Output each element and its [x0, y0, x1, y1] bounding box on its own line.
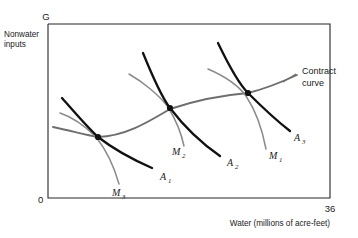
- x-axis-label: Water (millions of acre-feet): [230, 219, 331, 228]
- curve-label-a2-base: A: [226, 157, 234, 168]
- curve-label-m2-base: M: [171, 146, 181, 157]
- curve-label-a2: A 2: [226, 157, 239, 170]
- contract-curve-annotation-line1: Contract: [302, 66, 337, 76]
- curve-label-a1-base: A: [159, 171, 167, 182]
- isoquant-m1-path: [208, 69, 266, 149]
- curve-label-m2-sub: 2: [182, 152, 186, 159]
- contract-curve-figure: G Nonwater inputs 0 36 Water (millions o…: [0, 0, 358, 238]
- curve-label-a1-sub: 1: [168, 177, 171, 184]
- curve-label-a1: A 1: [159, 171, 171, 184]
- curve-label-m2: M 2: [171, 146, 186, 159]
- curve-label-m1-sub: 1: [279, 156, 282, 163]
- isoquant-a3-path: [218, 43, 290, 131]
- tangency-point-2: [167, 105, 173, 111]
- y-axis-corner-label-G: G: [42, 11, 49, 22]
- contract-curve-annotation-line2: curve: [302, 78, 324, 88]
- tangency-point-1: [95, 134, 101, 140]
- curve-label-m1: M 1: [268, 150, 282, 163]
- origin-label-zero: 0: [38, 194, 43, 205]
- y-axis-label-line1: Nonwater: [4, 30, 39, 39]
- curve-label-a2-sub: 2: [235, 163, 239, 170]
- curve-label-m3-sub: 3: [121, 193, 126, 200]
- plot-frame: [48, 24, 330, 198]
- contract-curve-leader: [283, 74, 296, 82]
- curve-label-a3-sub: 3: [301, 138, 306, 145]
- tangency-point-3: [245, 90, 251, 96]
- curve-label-a3: A 3: [293, 132, 306, 145]
- y-axis-label-line2: inputs: [4, 40, 26, 49]
- isoquant-m3-path: [60, 113, 119, 184]
- curve-label-m1-base: M: [268, 150, 278, 161]
- x-axis-max-label-36: 36: [325, 203, 336, 214]
- curve-label-a3-base: A: [293, 132, 301, 143]
- curve-label-m3-base: M: [111, 187, 121, 198]
- diagram-canvas: G Nonwater inputs 0 36 Water (millions o…: [0, 0, 358, 238]
